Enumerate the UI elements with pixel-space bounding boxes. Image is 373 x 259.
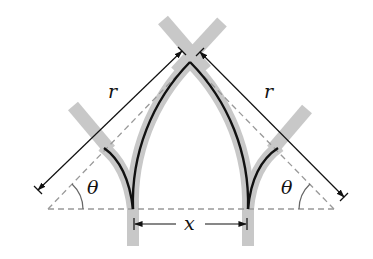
right-side-arc-band bbox=[248, 146, 280, 209]
angle-label-right: θ bbox=[281, 176, 293, 198]
right-main-arch-band bbox=[190, 62, 248, 209]
right-radius-arrow bbox=[200, 52, 344, 197]
angle-label-left: θ bbox=[87, 176, 99, 198]
gothic-arch-diagram: r r θ θ x bbox=[0, 0, 373, 259]
left-radius-arrow bbox=[38, 51, 182, 190]
angle-arcs bbox=[72, 184, 310, 209]
left-angle-arc bbox=[72, 184, 83, 209]
left-main-arch-band bbox=[133, 62, 190, 209]
left-side-arc-band bbox=[102, 146, 133, 209]
right-angle-arc bbox=[299, 184, 310, 209]
span-label: x bbox=[184, 212, 195, 234]
